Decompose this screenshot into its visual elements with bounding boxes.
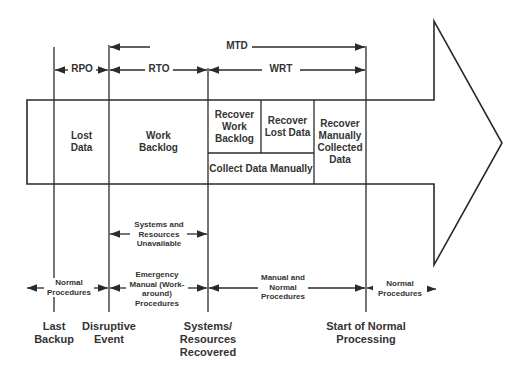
recover-work-backlog-text: Recover Work Backlog	[211, 109, 259, 145]
diagram-lines	[0, 0, 527, 374]
last-backup-label: Last Backup	[28, 320, 80, 346]
wrt-label: WRT	[263, 63, 299, 75]
emergency-procedures-label: Emergency Manual (Work-around) Procedure…	[126, 270, 188, 308]
collect-data-manually-text: Collect Data Manually	[209, 163, 312, 175]
lost-data-box: Lost Data	[55, 101, 108, 183]
lost-data-text: Lost Data	[65, 130, 99, 154]
normal-procedures-after-label: Normal Procedures	[373, 279, 427, 298]
systems-unavailable-label: Systems and Resources Unavailable	[131, 220, 187, 249]
systems-recovered-label: Systems/ Resources Recovered	[176, 320, 240, 360]
rto-rpo-mtd-diagram: MTD RPO RTO WRT Lost Data Work Backlog R…	[0, 0, 527, 374]
mtd-label: MTD	[222, 40, 252, 52]
rpo-label: RPO	[68, 63, 96, 75]
recover-work-backlog-box: Recover Work Backlog	[209, 101, 260, 152]
work-backlog-box: Work Backlog	[110, 101, 207, 183]
disruptive-event-label: Disruptive Event	[78, 320, 140, 346]
start-normal-processing-label: Start of Normal Processing	[326, 320, 406, 346]
recover-lost-data-box: Recover Lost Data	[262, 101, 313, 152]
recover-manually-collected-box: Recover Manually Collected Data	[315, 101, 365, 183]
manual-normal-procedures-label: Manual and Normal Procedures	[258, 273, 308, 302]
normal-procedures-before-label: Normal Procedures	[44, 278, 94, 297]
recover-manually-collected-text: Recover Manually Collected Data	[315, 118, 365, 166]
work-backlog-text: Work Backlog	[134, 130, 184, 154]
recover-lost-data-text: Recover Lost Data	[264, 115, 312, 139]
rto-label: RTO	[145, 63, 173, 75]
collect-data-manually-box: Collect Data Manually	[209, 154, 313, 183]
